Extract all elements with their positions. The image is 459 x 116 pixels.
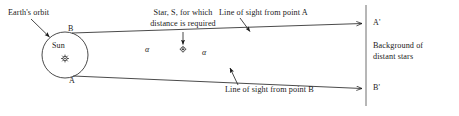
point-b-label: B	[68, 24, 73, 34]
distant-stars-background-label: Background ofdistant stars	[373, 40, 423, 62]
star-note-label: Star, S, for whichdistance is required	[133, 8, 233, 29]
background-line-2: distant stars	[373, 52, 413, 61]
b-prime-label: B'	[373, 83, 380, 93]
alpha-left-label: α	[145, 45, 149, 55]
star-note-line-1: Star, S, for which	[153, 8, 212, 17]
background-line-1: Background of	[373, 41, 423, 50]
line-of-sight-b-label: Line of sight from point B	[225, 85, 314, 95]
a-prime-label: A'	[373, 18, 380, 28]
alpha-right-label: α	[202, 48, 206, 58]
earths-orbit-leader	[31, 19, 50, 37]
line-of-sight-from-a-ray	[73, 76, 362, 89]
earths-orbit-label: Earth's orbit	[8, 8, 49, 18]
line-of-sight-a-leader	[240, 18, 250, 32]
line-of-sight-a-label: Line of sight from point A	[219, 8, 308, 18]
sun-icon	[61, 55, 69, 63]
star-note-line-2: distance is required	[150, 19, 216, 28]
parallax-diagram: Earth's orbit Sun B A Star, S, for which…	[0, 0, 459, 116]
point-a-label: A	[69, 76, 75, 86]
star-icon	[180, 46, 187, 53]
sun-label: Sun	[52, 41, 65, 51]
